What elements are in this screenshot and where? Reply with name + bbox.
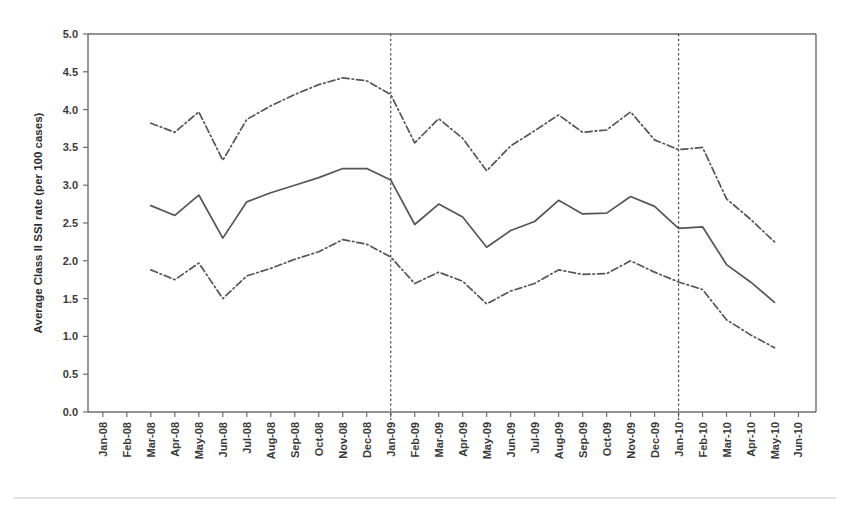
y-tick-label: 3.0 [63,179,78,191]
x-tick-label: Sep-08 [289,422,301,458]
x-tick-label: Feb-10 [697,422,709,457]
x-tick-label: Apr-10 [745,422,757,457]
x-tick-label: Feb-08 [121,422,133,457]
y-tick-label: 1.0 [63,330,78,342]
x-tick-label: Nov-08 [337,422,349,459]
x-tick-label: Oct-09 [601,422,613,456]
y-tick-label: 4.5 [63,66,78,78]
x-tick-label: Mar-08 [145,422,157,457]
x-tick-label: Mar-09 [433,422,445,457]
x-tick-label: Oct-08 [313,422,325,456]
y-tick-label: 1.5 [63,293,78,305]
x-tick-label: Dec-09 [649,422,661,458]
x-tick-label: Jan-08 [97,422,109,457]
y-tick-label: 0.5 [63,368,78,380]
x-tick-label: Apr-08 [169,422,181,457]
x-tick-label: Jan-10 [673,422,685,457]
x-tick-label: Jul-09 [529,422,541,454]
y-tick-label: 3.5 [63,141,78,153]
x-tick-label: Aug-08 [265,422,277,459]
x-tick-label: Jun-10 [792,422,804,457]
y-tick-label: 2.0 [63,255,78,267]
x-tick-label: Jun-08 [217,422,229,457]
x-tick-label: May-09 [481,422,493,459]
x-tick-label: Sep-09 [577,422,589,458]
x-tick-label: May-08 [193,422,205,459]
x-tick-label: Jan-09 [385,422,397,457]
y-tick-label: 2.5 [63,217,78,229]
x-tick-label: Aug-09 [553,422,565,459]
x-tick-label: May-10 [769,422,781,459]
control-chart: Average Class II SSI rate (per 100 cases… [0,0,850,508]
x-tick-label: Apr-09 [457,422,469,457]
x-tick-label: Dec-08 [361,422,373,458]
y-tick-label: 5.0 [63,28,78,40]
y-tick-label: 0.0 [63,406,78,418]
x-tick-label: Feb-09 [409,422,421,457]
x-tick-label: Jun-09 [505,422,517,457]
chart-figure: Average Class II SSI rate (per 100 cases… [0,0,850,508]
x-tick-label: Nov-09 [625,422,637,459]
y-axis-title: Average Class II SSI rate (per 100 cases… [32,112,44,333]
y-tick-label: 4.0 [63,104,78,116]
x-tick-label: Jul-08 [241,422,253,454]
x-tick-label: Mar-10 [721,422,733,457]
